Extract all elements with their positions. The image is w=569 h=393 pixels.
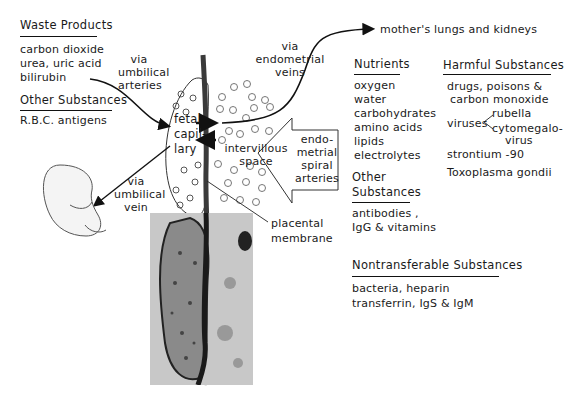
- virus-item: rubella: [492, 107, 532, 120]
- nontransferable-heading: Nontransferable Substances: [352, 258, 523, 272]
- viruses-bracket: [0, 0, 569, 393]
- harmful-item: strontium -90: [447, 148, 524, 161]
- harmful-item: Toxoplasma gondii: [447, 166, 552, 179]
- nontransferable-item: transferrin, IgS & IgM: [352, 297, 474, 310]
- placenta-transfer-diagram: Waste Products carbon dioxide urea, uric…: [0, 0, 569, 393]
- virus-item: virus: [505, 134, 533, 147]
- nontransferable-item: bacteria, heparin: [352, 282, 450, 295]
- nontransferable-rule: [352, 276, 499, 277]
